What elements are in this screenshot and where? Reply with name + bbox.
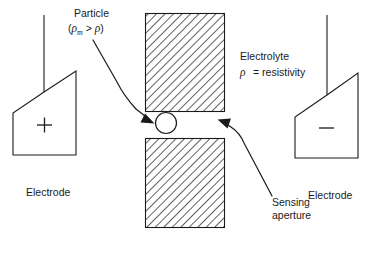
lower-aperture-wall bbox=[146, 139, 225, 228]
diagram-canvas: Electrode Electrode Particle (ρm > ρ) El… bbox=[0, 0, 371, 263]
particle-label: Particle bbox=[74, 7, 109, 19]
left-electrode-label: Electrode bbox=[26, 186, 71, 198]
upper-aperture-wall bbox=[146, 14, 225, 112]
plus-sign-icon bbox=[37, 118, 52, 133]
particle-density-condition: (ρm > ρ) bbox=[68, 22, 104, 37]
particle-annotation: Particle (ρm > ρ) bbox=[68, 7, 155, 124]
negative-electrode: Electrode bbox=[295, 15, 358, 201]
electrolyte-resistivity-symbol: ρ bbox=[239, 66, 246, 79]
positive-electrode: Electrode bbox=[13, 15, 76, 198]
coulter-counter-diagram: Electrode Electrode Particle (ρm > ρ) El… bbox=[0, 0, 371, 263]
upper-wall-body bbox=[146, 14, 225, 112]
sensing-aperture-leader-arrowhead bbox=[218, 119, 232, 129]
electrolyte-label: Electrolyte bbox=[240, 50, 289, 62]
greater-than-operator: > bbox=[83, 22, 95, 34]
sensing-aperture-label-line2: aperture bbox=[272, 209, 311, 221]
particle-leader-arrowhead bbox=[141, 114, 155, 124]
sensing-aperture-annotation: Sensing aperture bbox=[218, 119, 312, 222]
sensing-aperture-leader-line bbox=[223, 122, 272, 196]
particle-leader-line bbox=[93, 40, 150, 120]
lower-wall-body bbox=[146, 139, 225, 228]
particle bbox=[156, 113, 177, 134]
paren-close: ) bbox=[100, 22, 104, 34]
right-electrode-label: Electrode bbox=[308, 189, 353, 201]
electrolyte-resistivity-definition: = resistivity bbox=[253, 66, 306, 78]
sensing-aperture-label-line1: Sensing bbox=[272, 196, 310, 208]
electrolyte-annotation: Electrolyte ρ = resistivity bbox=[239, 50, 306, 79]
